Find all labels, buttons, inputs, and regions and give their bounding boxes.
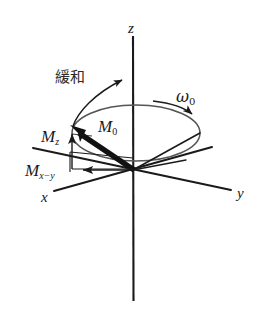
mxy-subscript: x−y [39, 170, 55, 181]
m0-subscript: 0 [112, 126, 117, 137]
omega-base: ω [176, 87, 189, 106]
precession-frequency-label: ω0 [176, 89, 195, 105]
diagram-svg [0, 0, 264, 310]
cone-edge-right [133, 133, 200, 170]
relaxation-label: 緩和 [55, 70, 85, 85]
mxy-base: M [25, 161, 39, 180]
y-axis-label: y [237, 186, 244, 201]
m0-base: M [98, 117, 112, 136]
diagram-canvas: z y x M0 Mz Mx−y 緩和 ω0 [0, 0, 264, 310]
mz-component-label: Mz [41, 128, 59, 145]
precession-ellipse [72, 105, 200, 161]
omega-subscript: 0 [189, 96, 195, 107]
mz-base: M [41, 127, 55, 146]
mz-subscript: z [55, 136, 59, 147]
z-axis-label: z [128, 21, 134, 36]
x-axis-label: x [41, 190, 48, 205]
m0-vector-label: M0 [98, 118, 117, 135]
mxy-component-label: Mx−y [25, 162, 55, 179]
